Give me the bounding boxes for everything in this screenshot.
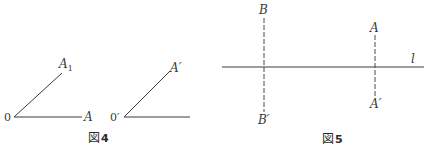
caption-prefix: 図	[88, 131, 100, 145]
point-label-a: A	[369, 21, 379, 35]
caption-number: 5	[335, 133, 343, 146]
point-label-b-prime: B′	[257, 113, 270, 127]
angle-right: 0′ A′	[110, 61, 190, 124]
diagram-canvas: 0 A1 A 0′ A′ 図4 l B B′ A A′ 図5	[0, 0, 432, 155]
caption-figure-4: 図4	[88, 131, 109, 145]
caption-number: 4	[101, 132, 109, 145]
vertex-label-0: 0	[4, 111, 11, 124]
point-label-b: B	[258, 3, 268, 17]
point-label-a-prime: A′	[169, 61, 182, 75]
a1-subscript: 1	[68, 64, 73, 73]
angle-left: 0 A1 A	[4, 57, 93, 124]
point-label-a1: A1	[58, 57, 73, 73]
caption-figure-5: 図5	[322, 132, 343, 146]
a1-main: A	[58, 57, 68, 71]
line-label-l: l	[411, 52, 415, 66]
figure-4: 0 A1 A 0′ A′ 図4	[4, 57, 190, 145]
caption-prefix: 図	[322, 132, 334, 146]
point-label-a-prime: A′	[369, 97, 382, 111]
ray-to-a-prime	[124, 71, 170, 117]
ray-to-a1	[14, 73, 62, 117]
point-label-a: A	[83, 110, 93, 124]
vertex-label-0-prime: 0′	[110, 111, 120, 124]
figure-5: l B B′ A A′ 図5	[222, 3, 424, 146]
